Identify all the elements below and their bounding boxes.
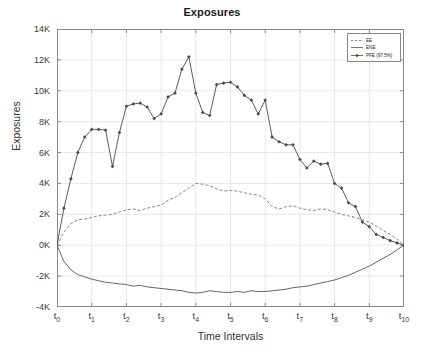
series-marker [166, 95, 170, 99]
series-marker [256, 112, 260, 116]
gridlines [57, 29, 404, 307]
x-tick-label: t9 [354, 310, 384, 323]
chart-canvas [57, 29, 404, 307]
series-marker [347, 201, 351, 205]
series-marker [354, 205, 358, 209]
series-marker [194, 91, 198, 95]
y-axis-label: Exposures [10, 76, 22, 176]
x-tick-label: t3 [146, 310, 176, 323]
series-marker [187, 55, 191, 59]
y-tick-label: -4K [16, 302, 50, 312]
x-tick-label: t5 [216, 310, 246, 323]
y-tick-label: -2K [16, 271, 50, 281]
y-tick-label: 12K [16, 55, 50, 65]
series-marker [180, 67, 184, 71]
y-tick-label: 2K [16, 209, 50, 219]
series-marker [97, 128, 101, 132]
series-marker [76, 151, 80, 155]
x-tick-label: t10 [389, 310, 419, 323]
legend-swatch [350, 52, 364, 59]
series-marker [381, 236, 385, 240]
y-tick-label: 0K [16, 240, 50, 250]
series-marker [125, 104, 129, 108]
series-marker [118, 131, 122, 135]
legend-label: ENE [366, 44, 375, 51]
legend-swatch [350, 37, 364, 44]
y-tick-label: 4K [16, 178, 50, 188]
y-tick-label: 14K [16, 24, 50, 34]
series-marker [208, 114, 212, 118]
plot-area [57, 29, 404, 307]
series-marker [215, 83, 219, 87]
series-marker [62, 206, 66, 210]
series-marker [388, 239, 392, 243]
legend-swatch [350, 44, 364, 51]
x-tick-label: t0 [42, 310, 72, 323]
series-marker [201, 111, 205, 115]
legend-label: EE [366, 37, 372, 44]
legend-item[interactable]: PFE (97.5%) [350, 52, 398, 59]
series-marker [111, 165, 115, 169]
chart-title: Exposures [0, 6, 424, 18]
series-marker [395, 241, 399, 245]
legend-item[interactable]: ENE [350, 44, 398, 51]
series-marker [263, 98, 267, 102]
legend-item[interactable]: EE [350, 37, 398, 44]
x-tick-label: t4 [181, 310, 211, 323]
series-marker [326, 162, 330, 166]
legend-label: PFE (97.5%) [366, 52, 392, 59]
chart-figure: Exposures Exposures Time Intervals 14K12… [0, 0, 424, 357]
series-marker [138, 101, 142, 105]
series-marker [319, 162, 323, 166]
x-tick-label: t1 [77, 310, 107, 323]
x-tick-label: t8 [320, 310, 350, 323]
series-marker [222, 81, 226, 85]
series-marker [69, 177, 73, 181]
series-marker [173, 91, 177, 95]
x-tick-label: t7 [285, 310, 315, 323]
x-axis-label: Time Intervals [57, 330, 404, 342]
chart-legend[interactable]: EEENEPFE (97.5%) [347, 33, 401, 62]
series-marker [284, 143, 288, 147]
series-marker [104, 128, 108, 132]
x-tick-label: t6 [250, 310, 280, 323]
x-tick-label: t2 [111, 310, 141, 323]
series-marker [132, 102, 136, 106]
series-marker [291, 143, 295, 147]
